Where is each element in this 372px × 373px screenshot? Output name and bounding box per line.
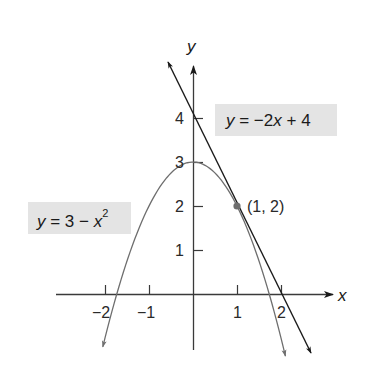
y-axis-label: y	[187, 38, 196, 55]
x-axis-label: x	[338, 287, 347, 304]
point-label: (1, 2)	[247, 199, 284, 215]
parabola-eq-sup: 2	[102, 207, 108, 219]
line-eq-x: x	[273, 111, 282, 130]
parabola-eq-x: x	[94, 212, 103, 231]
y-tick-label-1: 1	[175, 243, 184, 259]
parabola-eq-rest: = 3 −	[46, 212, 94, 231]
parabola-equation-label: y = 3 − x2	[28, 202, 131, 234]
x-tick-label-1: 1	[233, 305, 242, 321]
line-equation-label: y = −2x + 4	[215, 104, 337, 136]
x-tick-label-2: 2	[277, 305, 286, 321]
tangent-point	[233, 202, 240, 209]
chart-canvas	[0, 0, 372, 373]
line-eq-rest: = −2	[235, 111, 274, 130]
line-eq-tail: + 4	[282, 111, 311, 130]
y-tick-label-4: 4	[175, 111, 184, 127]
parabola-eq-y: y	[37, 212, 46, 231]
x-tick-label-neg1: −1	[137, 305, 155, 321]
y-tick-label-3: 3	[175, 155, 184, 171]
line-eq-y: y	[226, 111, 235, 130]
y-tick-label-2: 2	[175, 199, 184, 215]
x-tick-label-neg2: −2	[92, 305, 110, 321]
y-ticks	[193, 119, 203, 251]
